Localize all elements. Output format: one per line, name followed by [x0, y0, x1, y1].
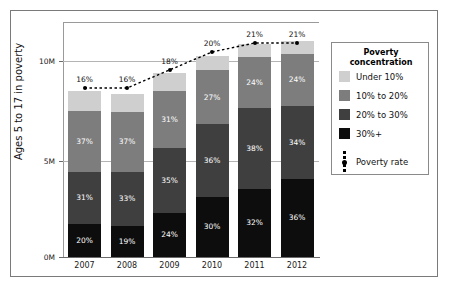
segment-value-label: 36%	[289, 214, 306, 222]
bar-segment-2011-10-to-20-: 24%	[238, 57, 271, 108]
segment-value-label: 38%	[246, 145, 263, 153]
segment-value-label: 37%	[119, 138, 136, 146]
segment-value-label: 36%	[204, 157, 221, 165]
legend-item-10-to-20-[interactable]: 10% to 20%	[339, 90, 408, 101]
legend-swatch-icon	[339, 71, 350, 82]
legend-item-label: Poverty rate	[356, 157, 408, 167]
segment-value-label: 27%	[204, 94, 221, 102]
bar-segment-2011-under-10-	[238, 44, 271, 57]
legend-swatch-icon	[339, 128, 350, 139]
bar-2007: 20%31%37%	[68, 91, 101, 257]
legend-item-under-10-[interactable]: Under 10%	[339, 71, 403, 82]
segment-value-label: 37%	[76, 138, 93, 146]
x-tick-label-2007: 2007	[63, 261, 107, 270]
bar-segment-2010-10-to-20-: 27%	[196, 70, 229, 124]
bar-segment-2007-under-10-	[68, 91, 101, 111]
rate-label-2011: 21%	[240, 30, 270, 39]
legend-item-20-to-30-[interactable]: 20% to 30%	[339, 109, 408, 120]
bar-segment-2010-20-to-30-: 36%	[196, 124, 229, 196]
bar-segment-2011-30-: 32%	[238, 189, 271, 257]
legend-item-label: 10% to 20%	[356, 91, 408, 101]
bar-segment-2010-30-: 30%	[196, 197, 229, 257]
bar-2008: 19%33%37%	[111, 94, 144, 257]
bar-segment-2007-10-to-20-: 37%	[68, 111, 101, 172]
legend-title-line1: Poverty	[332, 48, 430, 58]
chart-root: Ages 5 to 17 in poverty 10M 5M 0M 20%31%…	[0, 0, 449, 291]
bar-segment-2012-10-to-20-: 24%	[281, 54, 314, 106]
rate-point-2012	[295, 41, 299, 45]
segment-value-label: 35%	[161, 177, 178, 185]
legend-item-30-[interactable]: 30%+	[339, 128, 382, 139]
x-tick-label-2010: 2010	[190, 261, 234, 270]
y-tick-label-10m: 10M	[33, 57, 55, 66]
chart-legend: Poverty concentration Under 10%10% to 20…	[331, 42, 429, 175]
segment-value-label: 30%	[204, 223, 221, 231]
legend-swatch-icon	[339, 90, 350, 101]
segment-value-label: 20%	[76, 237, 93, 245]
bar-2012: 36%34%24%	[281, 41, 314, 257]
bar-segment-2007-20-to-30-: 31%	[68, 172, 101, 223]
legend-item-label: 20% to 30%	[356, 110, 408, 120]
bar-segment-2010-under-10-	[196, 56, 229, 70]
segment-value-label: 24%	[289, 76, 306, 84]
segment-value-label: 31%	[76, 194, 93, 202]
legend-title-line2: concentration	[332, 58, 430, 68]
y-tick-label-5m: 5M	[33, 157, 55, 166]
y-axis-title: Ages 5 to 17 in poverty	[13, 22, 24, 182]
rate-point-2011	[253, 41, 257, 45]
legend-item-label: Under 10%	[356, 72, 403, 82]
bar-segment-2009-under-10-	[153, 73, 186, 91]
x-tick-label-2011: 2011	[233, 261, 277, 270]
rate-label-2008: 16%	[112, 75, 142, 84]
legend-title: Poverty concentration	[332, 48, 430, 68]
bar-segment-2008-10-to-20-: 37%	[111, 112, 144, 172]
bar-2009: 24%35%31%	[153, 73, 186, 257]
legend-item-poverty-rate[interactable]: Poverty rate	[339, 151, 408, 173]
segment-value-label: 24%	[161, 231, 178, 239]
x-tick-label-2008: 2008	[105, 261, 149, 270]
x-tick-label-2012: 2012	[275, 261, 319, 270]
segment-value-label: 34%	[289, 139, 306, 147]
segment-value-label: 32%	[246, 219, 263, 227]
legend-item-label: 30%+	[356, 129, 382, 139]
bar-segment-2012-30-: 36%	[281, 179, 314, 257]
bar-2010: 30%36%27%	[196, 56, 229, 257]
rate-label-2012: 21%	[282, 30, 312, 39]
segment-value-label: 24%	[246, 79, 263, 87]
bar-segment-2008-under-10-	[111, 94, 144, 112]
bar-segment-2009-10-to-20-: 31%	[153, 91, 186, 148]
bar-segment-2009-20-to-30-: 35%	[153, 148, 186, 212]
rate-point-2007	[83, 86, 87, 90]
rate-point-2010	[210, 50, 214, 54]
rate-label-2009: 18%	[155, 57, 185, 66]
rate-label-2007: 16%	[70, 75, 100, 84]
rate-label-2010: 20%	[197, 39, 227, 48]
bar-segment-2012-20-to-30-: 34%	[281, 106, 314, 179]
bar-segment-2008-20-to-30-: 33%	[111, 172, 144, 226]
segment-value-label: 33%	[119, 195, 136, 203]
bar-segment-2008-30-: 19%	[111, 226, 144, 257]
x-axis-line	[63, 257, 320, 258]
x-tick-label-2009: 2009	[148, 261, 192, 270]
bar-2011: 32%38%24%	[238, 44, 271, 257]
bar-segment-2007-30-: 20%	[68, 224, 101, 257]
rate-point-2008	[125, 86, 129, 90]
rate-point-2009	[168, 68, 172, 72]
segment-value-label: 31%	[161, 116, 178, 124]
segment-value-label: 19%	[119, 238, 136, 246]
dotted-line-marker-icon	[339, 151, 350, 173]
bar-segment-2011-20-to-30-: 38%	[238, 108, 271, 189]
bar-segment-2009-30-: 24%	[153, 213, 186, 257]
y-tick-label-0m: 0M	[33, 253, 55, 262]
legend-swatch-icon	[339, 109, 350, 120]
